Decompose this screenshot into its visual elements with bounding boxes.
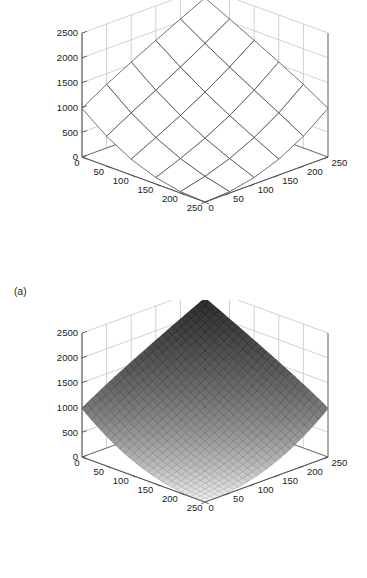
y-tick-label: 100: [113, 475, 129, 486]
x-tick-label: 100: [258, 184, 274, 195]
y-tick-label: 250: [187, 202, 203, 213]
z-tick-label: 1000: [57, 102, 78, 113]
y-tick-label: 0: [74, 457, 79, 468]
y-tick-label: 150: [137, 484, 153, 495]
z-tick-label: 1000: [57, 402, 78, 413]
y-tick-label: 50: [94, 166, 105, 177]
y-tick-label: 250: [187, 502, 203, 513]
panel-a-caption: (a): [14, 286, 27, 297]
y-tick-label: 150: [137, 184, 153, 195]
surface-plot-a: 0500100015002000250025020015010050005010…: [0, 0, 367, 268]
x-tick-label: 150: [282, 475, 298, 486]
z-tick-label: 500: [62, 427, 78, 438]
z-tick-label: 1500: [57, 377, 78, 388]
z-tick-label: 2500: [57, 27, 78, 38]
x-tick-label: 0: [209, 202, 214, 213]
z-tick-label: 2000: [57, 352, 78, 363]
x-tick-label: 50: [233, 193, 244, 204]
figure-panel-a: 0500100015002000250025020015010050005010…: [0, 0, 367, 300]
x-tick-label: 200: [307, 166, 323, 177]
surface-mesh-b: 0500100015002000250025020015010050005010…: [0, 300, 367, 568]
surface-plot-b: 0500100015002000250025020015010050005010…: [0, 300, 367, 568]
z-tick-label: 1500: [57, 77, 78, 88]
y-tick-label: 0: [74, 157, 79, 168]
y-tick-label: 100: [113, 175, 129, 186]
x-tick-label: 150: [282, 175, 298, 186]
surface-mesh-a: 0500100015002000250025020015010050005010…: [0, 0, 367, 268]
x-tick-label: 250: [332, 157, 348, 168]
figure-panel-b: 0500100015002000250025020015010050005010…: [0, 300, 367, 578]
z-tick-label: 500: [62, 127, 78, 138]
x-tick-label: 200: [307, 466, 323, 477]
x-tick-label: 250: [332, 457, 348, 468]
y-tick-label: 200: [162, 193, 178, 204]
x-tick-label: 100: [258, 484, 274, 495]
z-tick-label: 2000: [57, 52, 78, 63]
z-tick-label: 2500: [57, 327, 78, 338]
x-tick-label: 50: [233, 493, 244, 504]
surface-patches: [82, 300, 328, 502]
x-tick-label: 0: [209, 502, 214, 513]
y-tick-label: 200: [162, 493, 178, 504]
surface-patches: [82, 0, 328, 202]
y-tick-label: 50: [94, 466, 105, 477]
